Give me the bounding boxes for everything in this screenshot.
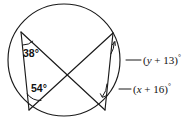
geometry-figure: 38° 54° (y + 13)° (x + 16)° [0, 0, 192, 117]
angle-label-y-plus-13: (y + 13)° [143, 53, 181, 68]
chord-diagonal-tr-bl [29, 33, 113, 110]
angle-label-x-plus-16: (x + 16)° [133, 82, 171, 97]
chord-left [21, 32, 29, 110]
y-expr-degree-icon: ° [178, 53, 181, 62]
x-expr-number: 16) [153, 83, 168, 96]
x-expr-degree-icon: ° [168, 82, 171, 91]
angle-label-54: 54° [31, 82, 47, 94]
x-expr-operator: + [142, 83, 154, 95]
circle-outline [8, 4, 120, 116]
chord-diagonal-tl-br [21, 32, 105, 110]
y-expr-number: 13) [163, 54, 178, 67]
angle-arc-bottom-left [27, 94, 41, 101]
angle-label-38: 38° [23, 47, 39, 59]
geometry-canvas: 38° 54° (y + 13)° (x + 16)° [0, 0, 192, 117]
y-expr-operator: + [152, 54, 164, 66]
chord-right [105, 33, 113, 110]
